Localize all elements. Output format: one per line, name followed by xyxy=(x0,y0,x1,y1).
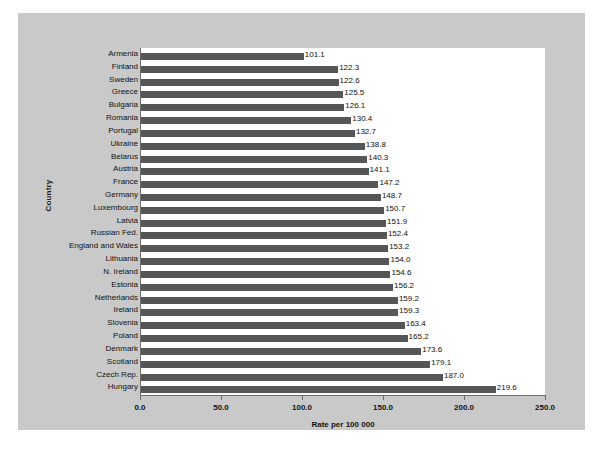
category-label: England and Wales xyxy=(38,241,138,250)
category-label: Scotland xyxy=(38,357,138,366)
bar-row[interactable]: 148.7 xyxy=(140,191,545,204)
x-axis-tick-label: 250.0 xyxy=(515,403,575,412)
x-axis-tick-mark xyxy=(383,395,384,400)
bar-row[interactable]: 156.2 xyxy=(140,281,545,294)
bar-value-label: 130.4 xyxy=(352,114,372,123)
category-label: Czech Rep. xyxy=(38,370,138,379)
chart-figure-panel: Country ArmeniaFinlandSwedenGreeceBulgar… xyxy=(18,13,585,430)
bar-row[interactable]: 126.1 xyxy=(140,101,545,114)
bar[interactable] xyxy=(140,181,378,188)
y-axis-line xyxy=(140,48,141,396)
bar-row[interactable]: 154.6 xyxy=(140,268,545,281)
bar[interactable] xyxy=(140,322,405,329)
bar-value-label: 125.5 xyxy=(344,88,364,97)
category-label: Slovenia xyxy=(38,318,138,327)
bar[interactable] xyxy=(140,361,430,368)
category-label: Lithuania xyxy=(38,254,138,263)
bar-row[interactable]: 130.4 xyxy=(140,114,545,127)
category-label: Romania xyxy=(38,113,138,122)
category-label: Ireland xyxy=(38,305,138,314)
bar-value-label: 159.3 xyxy=(399,306,419,315)
x-axis-tick-mark xyxy=(221,395,222,400)
bar[interactable] xyxy=(140,335,408,342)
bar-row[interactable]: 154.0 xyxy=(140,255,545,268)
bar-row[interactable]: 165.2 xyxy=(140,332,545,345)
bar-row[interactable]: 140.3 xyxy=(140,153,545,166)
bar[interactable] xyxy=(140,271,390,278)
bar[interactable] xyxy=(140,284,393,291)
x-axis-title: Rate per 100 000 xyxy=(140,420,546,429)
bar[interactable] xyxy=(140,143,365,150)
bar-row[interactable]: 138.8 xyxy=(140,140,545,153)
plot-area: 101.1122.3122.6125.5126.1130.4132.7138.8… xyxy=(140,48,545,395)
bar[interactable] xyxy=(140,53,304,60)
x-axis-line xyxy=(140,395,546,396)
x-axis-tick-mark xyxy=(302,395,303,400)
bar-value-label: 187.0 xyxy=(444,371,464,380)
bar-value-label: 141.1 xyxy=(370,165,390,174)
bar-value-label: 165.2 xyxy=(409,332,429,341)
x-axis-tick-label: 200.0 xyxy=(434,403,494,412)
category-label: Armenia xyxy=(38,49,138,58)
category-label: Sweden xyxy=(38,75,138,84)
bar[interactable] xyxy=(140,374,443,381)
bar[interactable] xyxy=(140,104,344,111)
bar[interactable] xyxy=(140,117,351,124)
bar-row[interactable]: 173.6 xyxy=(140,345,545,358)
bar-value-label: 122.3 xyxy=(339,63,359,72)
bar-row[interactable]: 150.7 xyxy=(140,204,545,217)
bar[interactable] xyxy=(140,79,339,86)
bar-row[interactable]: 187.0 xyxy=(140,371,545,384)
category-label: Luxembourg xyxy=(38,203,138,212)
bar-value-label: 147.2 xyxy=(379,178,399,187)
bar[interactable] xyxy=(140,258,389,265)
category-label: Austria xyxy=(38,164,138,173)
bar[interactable] xyxy=(140,194,381,201)
bar-value-label: 122.6 xyxy=(340,76,360,85)
bar-value-label: 173.6 xyxy=(422,345,442,354)
bar-row[interactable]: 159.2 xyxy=(140,294,545,307)
bar-row[interactable]: 179.1 xyxy=(140,358,545,371)
bar-value-label: 156.2 xyxy=(394,281,414,290)
bar-row[interactable]: 153.2 xyxy=(140,242,545,255)
bar-value-label: 132.7 xyxy=(356,127,376,136)
bar[interactable] xyxy=(140,348,421,355)
bar-row[interactable]: 159.3 xyxy=(140,306,545,319)
category-label: Germany xyxy=(38,190,138,199)
bar-row[interactable]: 163.4 xyxy=(140,319,545,332)
category-label: N. Ireland xyxy=(38,267,138,276)
bar-row[interactable]: 122.6 xyxy=(140,76,545,89)
bar-row[interactable]: 147.2 xyxy=(140,178,545,191)
bar-row[interactable]: 141.1 xyxy=(140,165,545,178)
bar-row[interactable]: 132.7 xyxy=(140,127,545,140)
x-axis-tick-mark xyxy=(140,395,141,400)
bar-value-label: 140.3 xyxy=(368,153,388,162)
bar[interactable] xyxy=(140,66,338,73)
category-label: Hungary xyxy=(38,382,138,391)
bar[interactable] xyxy=(140,297,398,304)
category-label: Portugal xyxy=(38,126,138,135)
bar-row[interactable]: 125.5 xyxy=(140,88,545,101)
category-label: Finland xyxy=(38,62,138,71)
bar-value-label: 126.1 xyxy=(345,101,365,110)
bar-row[interactable]: 152.4 xyxy=(140,229,545,242)
bar-row[interactable]: 151.9 xyxy=(140,217,545,230)
bar-value-label: 153.2 xyxy=(389,242,409,251)
bar[interactable] xyxy=(140,156,367,163)
bar[interactable] xyxy=(140,232,387,239)
bar-value-label: 219.6 xyxy=(497,383,517,392)
bar[interactable] xyxy=(140,386,496,393)
category-label: Netherlands xyxy=(38,293,138,302)
bar-row[interactable]: 101.1 xyxy=(140,50,545,63)
bar[interactable] xyxy=(140,309,398,316)
bar[interactable] xyxy=(140,220,386,227)
bar[interactable] xyxy=(140,130,355,137)
bar[interactable] xyxy=(140,245,388,252)
x-axis-tick-label: 50.0 xyxy=(191,403,251,412)
bar-value-label: 101.1 xyxy=(305,50,325,59)
bar[interactable] xyxy=(140,91,343,98)
bar-row[interactable]: 122.3 xyxy=(140,63,545,76)
bar[interactable] xyxy=(140,207,384,214)
bar-value-label: 159.2 xyxy=(399,294,419,303)
bar[interactable] xyxy=(140,168,369,175)
